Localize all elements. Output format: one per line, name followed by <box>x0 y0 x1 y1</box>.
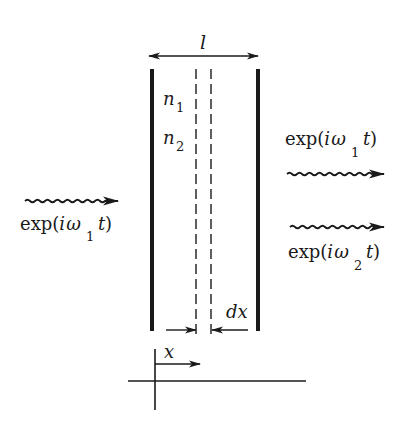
position-axis: x <box>128 341 306 410</box>
index-n2-base: n <box>163 127 175 148</box>
input-wave: exp(iω 1 t ) <box>20 200 118 244</box>
slice-width-dimension: dx <box>166 301 248 330</box>
output-wave-2-label: exp(iω <box>288 241 349 262</box>
input-wavy-arrow <box>25 200 118 203</box>
index-label-n1: n 1 <box>163 88 184 115</box>
index-n2-sub: 2 <box>176 139 184 154</box>
output-wave-1-label: exp(iω <box>285 128 346 149</box>
output-wave-2-wavy-arrow <box>290 226 384 229</box>
slab-right-wall <box>256 69 260 331</box>
input-wave-close: ) <box>105 213 112 234</box>
slab-left-wall <box>150 69 154 331</box>
dx-label: dx <box>226 301 248 322</box>
output-wave-1: exp(iω 1 t ) <box>285 128 384 175</box>
index-n1-base: n <box>163 88 175 109</box>
input-wave-label: exp(iω <box>20 213 81 234</box>
nonlinear-slab-diagram: l n 1 n 2 exp(iω 1 t ) exp(iω 1 t ) <box>0 0 401 427</box>
index-n1-sub: 1 <box>176 100 184 115</box>
output-wave-1-sub: 1 <box>351 145 359 160</box>
index-label-n2: n 2 <box>163 127 184 154</box>
thickness-label: l <box>200 31 206 53</box>
thickness-dimension: l <box>149 31 258 56</box>
output-wave-1-close: ) <box>370 128 377 149</box>
output-wave-2-sub: 2 <box>354 258 362 273</box>
input-wave-sub: 1 <box>86 229 94 244</box>
output-wave-2-close: ) <box>373 241 380 262</box>
output-wave-1-wavy-arrow <box>287 173 384 176</box>
x-label: x <box>164 341 174 362</box>
output-wave-2: exp(iω 2 t ) <box>288 226 384 273</box>
